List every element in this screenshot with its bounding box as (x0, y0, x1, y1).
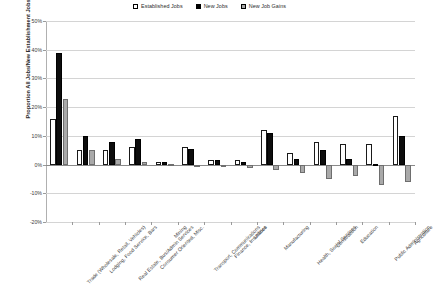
legend-swatch-new-job-gains (241, 4, 246, 9)
x-axis-label: Education (359, 224, 379, 244)
y-axis-title: Proportion All Jobs/New Establishment Jo… (25, 0, 31, 139)
bar-gains (115, 159, 121, 165)
plot-area: 50%40%30%20%10%0%-10%-20% (46, 21, 415, 222)
bar-newjobs (188, 149, 194, 165)
bar-group (389, 21, 415, 222)
bar-gains (168, 164, 174, 166)
y-tick-label: 50% (32, 18, 42, 24)
legend-item-new-jobs: New Jobs (196, 3, 228, 9)
bar-group (151, 21, 177, 222)
bar-group (257, 21, 283, 222)
bar-groups (46, 21, 415, 222)
bar-established (208, 160, 214, 164)
bar-gains (273, 165, 279, 171)
bar-group (46, 21, 72, 222)
bar-gains (221, 165, 227, 167)
bar-newjobs (215, 160, 221, 164)
bar-gains (379, 165, 385, 185)
bar-established (393, 116, 399, 165)
bar-established (77, 150, 83, 164)
bar-newjobs (56, 53, 62, 165)
chart-legend: Established Jobs New Jobs New Job Gains (0, 3, 419, 9)
bar-newjobs (162, 162, 168, 165)
legend-swatch-established-jobs (133, 4, 138, 9)
bar-gains (194, 165, 200, 168)
y-tick-label: 20% (32, 104, 42, 110)
bar-group (178, 21, 204, 222)
bar-newjobs (399, 136, 405, 165)
y-tick-mark (43, 222, 46, 223)
bar-group (204, 21, 230, 222)
y-tick-label: -10% (30, 190, 42, 196)
bar-newjobs (109, 142, 115, 165)
bar-newjobs (135, 139, 141, 165)
bar-newjobs (320, 150, 326, 164)
y-tick-label: 10% (32, 133, 42, 139)
bar-newjobs (267, 133, 273, 165)
bar-established (287, 153, 293, 164)
bar-established (182, 147, 188, 164)
bar-group (336, 21, 362, 222)
bar-group (99, 21, 125, 222)
bar-group (310, 21, 336, 222)
bar-group (283, 21, 309, 222)
bar-established (50, 119, 56, 165)
bar-newjobs (83, 136, 89, 165)
bar-gains (300, 165, 306, 174)
bar-group (362, 21, 388, 222)
bar-gains (89, 150, 95, 164)
bar-newjobs (373, 164, 379, 166)
bar-established (156, 162, 162, 165)
legend-item-new-job-gains: New Job Gains (241, 3, 286, 9)
bar-gains (353, 165, 359, 176)
bar-established (340, 144, 346, 164)
legend-swatch-new-jobs (196, 4, 201, 9)
legend-label-new-job-gains: New Job Gains (249, 3, 286, 9)
y-tick-label: 0% (35, 162, 43, 168)
bar-group (125, 21, 151, 222)
bar-newjobs (294, 159, 300, 165)
y-tick-label: 30% (32, 75, 42, 81)
legend-label-established-jobs: Established Jobs (141, 3, 183, 9)
bar-gains (326, 165, 332, 179)
bar-gains (63, 99, 69, 165)
x-axis-labels: Trade (Wholesale, Retail, Vehicles)Lodgi… (46, 224, 415, 304)
y-tick-label: -20% (30, 219, 42, 225)
bar-gains (405, 165, 411, 182)
bar-newjobs (241, 162, 247, 165)
bar-group (231, 21, 257, 222)
bar-established (261, 130, 267, 164)
bar-established (314, 142, 320, 165)
bar-established (235, 160, 241, 164)
legend-label-new-jobs: New Jobs (204, 3, 228, 9)
bar-newjobs (346, 159, 352, 165)
x-tick-mark (415, 222, 416, 225)
bar-established (103, 150, 109, 164)
bar-established (129, 147, 135, 164)
x-axis-label: Transport, Communications (213, 224, 262, 273)
bar-established (366, 144, 372, 164)
bar-gains (142, 162, 148, 165)
bar-gains (247, 165, 253, 168)
x-axis-label: Manufacturing (283, 224, 310, 251)
legend-item-established-jobs: Established Jobs (133, 3, 183, 9)
x-axis-label: Construction (334, 224, 359, 249)
bar-group (72, 21, 98, 222)
y-tick-label: 40% (32, 47, 42, 53)
